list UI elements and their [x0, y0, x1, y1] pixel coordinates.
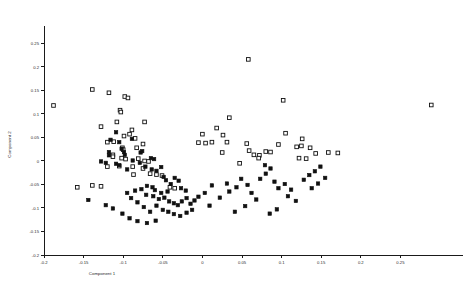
data-point-filled [169, 182, 172, 185]
x-tick-label: -0.15 [79, 260, 89, 265]
data-point-filled [104, 203, 107, 206]
x-tick-label: 0.25 [396, 260, 405, 265]
y-tick-label: -0.2 [32, 253, 40, 258]
data-point-open [221, 133, 225, 137]
data-point-open [120, 156, 124, 160]
series-open-square-group [52, 58, 433, 190]
y-tick-label: 0 [37, 159, 40, 164]
x-tick-label: -0.2 [40, 260, 48, 265]
data-point-filled [160, 165, 163, 168]
data-point-filled [177, 179, 180, 182]
data-point-filled [172, 212, 175, 215]
data-point-filled [148, 210, 151, 213]
data-point-filled [107, 150, 110, 153]
data-point-open [215, 126, 219, 130]
data-point-open [429, 103, 433, 107]
data-point-open [336, 151, 340, 155]
data-point-open [308, 146, 312, 150]
data-point-filled [145, 184, 148, 187]
data-point-open [119, 110, 123, 114]
data-point-filled [243, 204, 246, 207]
data-point-filled [138, 161, 141, 164]
data-point-filled [302, 178, 305, 181]
data-point-open [295, 145, 299, 149]
data-point-open [238, 162, 242, 166]
data-point-filled [164, 179, 167, 182]
data-point-open [297, 156, 301, 160]
data-point-filled [294, 199, 297, 202]
data-point-open [126, 96, 130, 100]
data-point-open [168, 185, 172, 189]
data-point-filled [145, 221, 148, 224]
data-point-open [327, 151, 331, 155]
y-axis-title: Component 2 [7, 131, 12, 158]
data-point-open [75, 185, 79, 189]
data-point-open [284, 131, 288, 135]
x-tick-label: -0.1 [120, 260, 128, 265]
data-point-open [281, 99, 285, 103]
data-point-filled [152, 195, 155, 198]
data-point-open [204, 141, 208, 145]
data-point-open [277, 143, 281, 147]
data-point-open [130, 128, 134, 132]
data-point-filled [176, 203, 179, 206]
data-point-filled [167, 200, 170, 203]
data-point-filled [313, 170, 316, 173]
data-point-filled [185, 196, 188, 199]
data-point-filled [163, 196, 166, 199]
data-point-filled [190, 208, 193, 211]
data-point-open [91, 184, 95, 188]
data-point-open [264, 150, 268, 154]
data-point-filled [233, 210, 236, 213]
data-point-filled [87, 198, 90, 201]
data-point-open [143, 159, 147, 163]
data-point-filled [310, 187, 313, 190]
data-point-filled [235, 186, 238, 189]
data-point-open [128, 132, 132, 136]
data-point-filled [120, 147, 123, 150]
data-point-filled [283, 182, 286, 185]
data-point-filled [228, 190, 231, 193]
data-point-filled [133, 189, 136, 192]
data-point-filled [275, 208, 278, 211]
data-point-filled [316, 182, 319, 185]
data-point-filled [140, 187, 143, 190]
x-axis-title: Component 1 [89, 271, 116, 276]
data-point-open [228, 116, 232, 120]
data-point-open [52, 104, 56, 108]
data-point-filled [263, 163, 266, 166]
x-tick-label: 0 [201, 260, 204, 265]
data-point-open [210, 140, 214, 144]
data-point-open [220, 151, 224, 155]
data-point-filled [141, 149, 144, 152]
data-point-filled [104, 161, 107, 164]
data-point-filled [167, 210, 170, 213]
data-point-filled [114, 131, 117, 134]
data-points-layer [52, 58, 433, 225]
data-point-filled [218, 196, 221, 199]
data-point-filled [173, 176, 176, 179]
data-point-open [304, 157, 308, 161]
data-point-open [252, 153, 256, 157]
data-point-filled [193, 199, 196, 202]
data-point-filled [179, 214, 182, 217]
data-point-open [122, 134, 126, 138]
y-tick-label: 0.25 [31, 41, 40, 46]
y-tick-label: -0.05 [29, 182, 39, 187]
x-tick-label: 0.2 [358, 260, 364, 265]
data-point-filled [197, 195, 200, 198]
data-point-open [245, 142, 249, 146]
data-point-filled [144, 193, 147, 196]
data-point-open [155, 173, 159, 177]
data-point-open [247, 58, 251, 62]
x-tick-label: 0.15 [317, 260, 326, 265]
data-point-filled [208, 204, 211, 207]
data-point-filled [109, 138, 112, 141]
data-point-filled [162, 175, 165, 178]
data-point-filled [255, 198, 258, 201]
data-point-open [135, 146, 139, 150]
data-point-filled [142, 205, 145, 208]
data-point-filled [130, 137, 133, 140]
data-point-open [106, 165, 110, 169]
data-point-filled [259, 177, 262, 180]
